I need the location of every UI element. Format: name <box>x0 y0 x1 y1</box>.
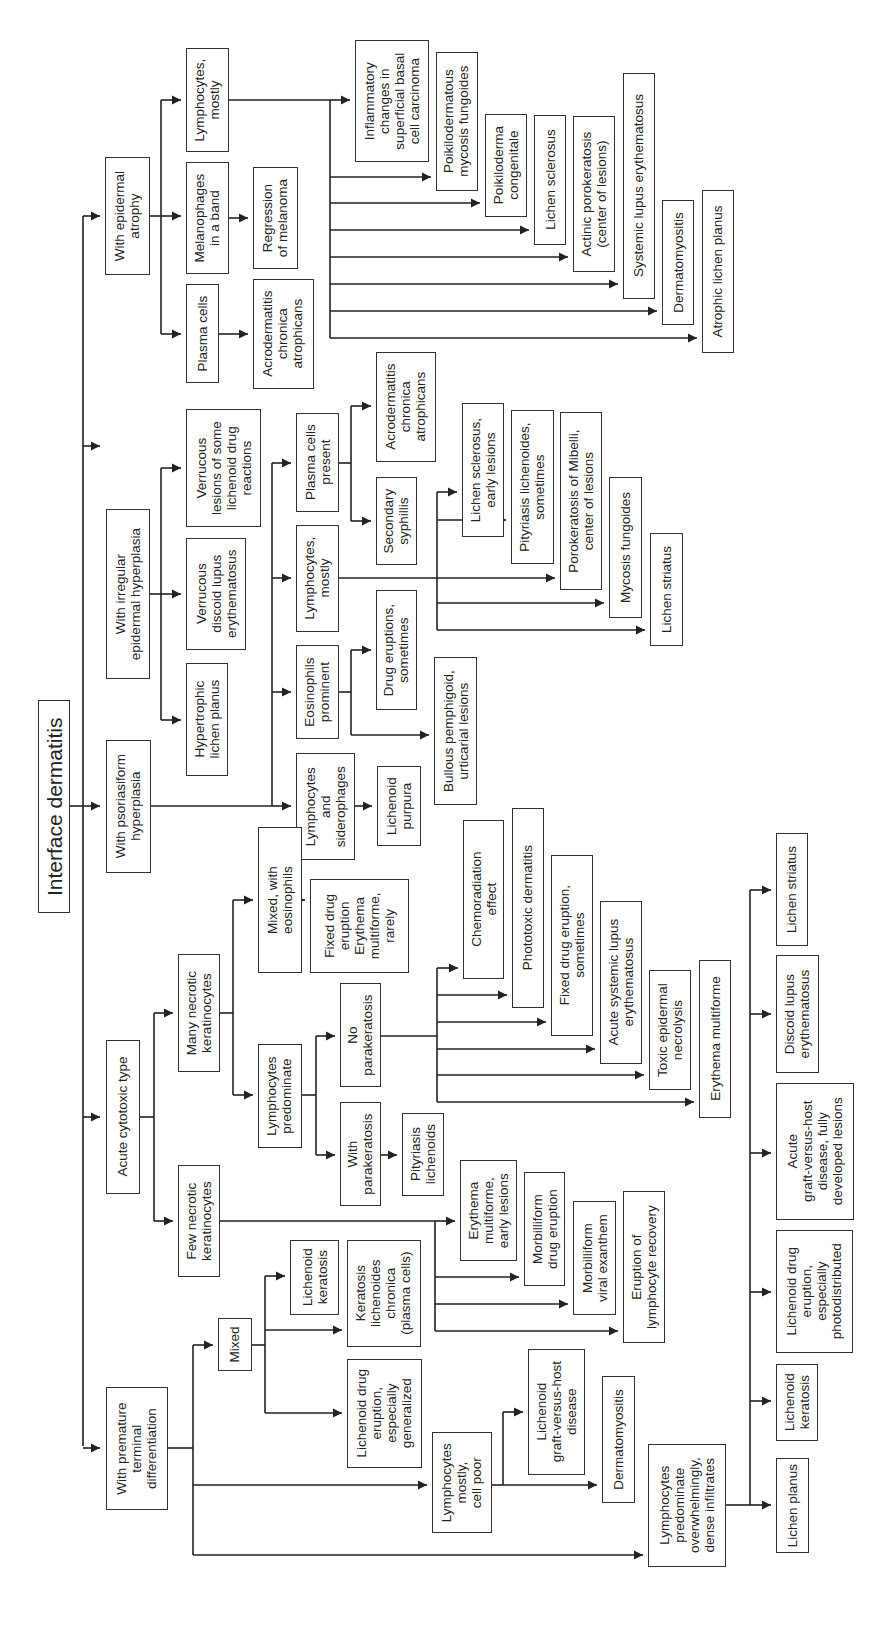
node-label: Pityriasis lichenoides, sometimes <box>517 422 547 551</box>
arrowhead-icon <box>635 1071 644 1080</box>
arrowhead-icon <box>362 517 371 526</box>
node-ps-mf: Mycosis fungoides <box>609 477 642 618</box>
node-ea-sle: Systemic lupus erythematosus <box>623 73 655 299</box>
diagram-title: Interface dermatitis <box>38 700 70 913</box>
node-pt-lichen-planus: Lichen planus <box>776 1458 809 1553</box>
node-ps-lichenoid-purpura: Lichenoid purpura <box>377 766 421 846</box>
node-pt-lk: Lichenoid keratosis <box>776 1364 818 1441</box>
node-epidermal-atrophy: With epidermal atrophy <box>105 157 150 275</box>
arrowhead-icon <box>422 173 431 182</box>
node-ps-drug-erupt: Drug eruptions, sometimes <box>376 590 417 710</box>
arrowhead-icon <box>276 1272 285 1281</box>
node-ea-infl: Inflammatory changes in superficial basa… <box>355 40 429 162</box>
node-ea-plasma: Plasma cells <box>186 284 219 383</box>
node-label: Toxic epidermal necrolysis <box>655 983 685 1077</box>
node-label: Eosinophils prominent <box>302 657 332 726</box>
node-label: Lichenoid drug eruption, especially gene… <box>354 1369 414 1458</box>
node-ea-regression: Regression of melanoma <box>253 167 298 269</box>
arrowhead-icon <box>762 1010 771 1019</box>
arrowhead-icon <box>609 280 618 289</box>
node-label: Poikiloderma congenitale <box>491 126 521 204</box>
node-label: Pityriasis lichenoids <box>408 1124 438 1184</box>
node-pt-lympho-cellpoor: Lymphocytes mostly, cell poor <box>432 1432 492 1533</box>
node-ac-fixed-em: Fixed drug eruption Erythema multiforme,… <box>310 879 409 973</box>
node-ps-lichstr: Lichen striatus <box>650 533 683 646</box>
node-label: Lymphocytes, mostly <box>302 537 332 620</box>
node-label: Lichen striatus <box>784 846 799 933</box>
node-ea-actinic: Actinic porokeratosis (center of lesions… <box>573 116 615 272</box>
node-pt-acute-gvhd: Acute graft-versus-host disease, fully d… <box>776 1083 854 1220</box>
node-label: Dermatomyositis <box>611 1389 626 1490</box>
arrowhead-icon <box>586 1045 595 1054</box>
arrowhead-icon <box>762 1288 771 1297</box>
arrowhead-icon <box>341 96 350 105</box>
arrowhead-icon <box>688 334 697 343</box>
node-label: With epidermal atrophy <box>112 171 142 261</box>
arrowhead-icon <box>164 1217 173 1226</box>
node-ps-lichscl: Lichen sclerosus, early lesions <box>462 403 504 537</box>
arrowhead-icon <box>326 1032 335 1041</box>
arrowhead-icon <box>498 991 507 1000</box>
arrowhead-icon <box>588 1481 597 1490</box>
arrowhead-icon <box>282 688 291 697</box>
arrowhead-icon <box>326 1151 335 1160</box>
node-label: Fixed drug eruption Erythema multiforme,… <box>322 893 398 960</box>
arrowhead-icon <box>609 1327 618 1336</box>
arrowhead-icon <box>239 214 248 223</box>
node-ih-hypertrophic: Hypertrophic lichen planus <box>186 663 228 776</box>
arrowhead-icon <box>420 731 429 740</box>
node-pt-lichenoid-gvhd: Lichenoid graft-versus-host disease <box>528 1349 585 1475</box>
arrowhead-icon <box>648 307 657 316</box>
node-ac-no-parak: No parakeratosis <box>340 983 381 1087</box>
arrowhead-icon <box>363 802 372 811</box>
node-ea-poikcong: Poikiloderma congenitale <box>485 114 527 217</box>
arrowhead-icon <box>91 1113 100 1122</box>
arrowhead-icon <box>282 459 291 468</box>
node-label: Discoid lupus erythematosus <box>782 970 812 1059</box>
node-ih-verr-drug: Verrucous lesions of some lichenoid drug… <box>186 409 261 527</box>
arrowhead-icon <box>537 1018 546 1027</box>
node-label: Lichenoid keratosis <box>299 1249 329 1307</box>
node-ea-lympho: Lymphocytes, mostly <box>186 48 229 152</box>
arrowhead-icon <box>762 886 771 895</box>
node-label: Melanophages in a band <box>192 174 222 263</box>
arrowhead-icon <box>172 464 181 473</box>
node-ps-syphilis: Secondary syphillis <box>376 477 417 565</box>
node-ps-pityriasis: Pityriasis lichenoides, sometimes <box>511 410 554 564</box>
arrowhead-icon <box>388 1151 397 1160</box>
node-label: With irregular epidermal hyperplasia <box>113 528 143 660</box>
node-ac-ten: Toxic epidermal necrolysis <box>649 970 691 1090</box>
arrowhead-icon <box>333 1409 342 1418</box>
node-label: Lichenoid graft-versus-host disease <box>534 1361 579 1462</box>
arrowhead-icon <box>239 330 248 339</box>
node-acute-cytotoxic: Acute cytotoxic type <box>106 1040 140 1194</box>
node-pt-lichenoid-keratosis: Lichenoid keratosis <box>290 1240 339 1315</box>
arrowhead-icon <box>362 402 371 411</box>
node-label: Erythema multiforme, early lesions <box>466 1173 511 1248</box>
node-label: Lichenoid keratosis <box>782 1374 812 1432</box>
node-label: Porokeratosis of Mibelli, center of lesi… <box>566 429 596 572</box>
node-label: Drug eruptions, sometimes <box>381 604 411 696</box>
arrowhead-icon <box>172 330 181 339</box>
node-label: Morbilliform drug eruption <box>529 1189 559 1269</box>
arrowhead-icon <box>244 896 253 905</box>
node-label: No parakeratosis <box>345 994 375 1075</box>
arrowhead-icon <box>471 199 480 208</box>
node-label: Systemic lupus erythematosus <box>631 94 646 277</box>
node-ps-porok: Porokeratosis of Mibelli, center of lesi… <box>560 412 602 590</box>
node-ea-poikmf: Poikilodermatous mycosis fungoides <box>436 52 478 191</box>
node-label: Poikilodermatous mycosis fungoides <box>442 66 472 177</box>
node-label: Inflammatory changes in superficial basa… <box>362 53 422 150</box>
node-label: Lichenoid purpura <box>384 777 414 835</box>
node-label: Actinic porokeratosis (center of lesions… <box>579 132 609 257</box>
node-pt-lichen-striatus: Lichen striatus <box>776 833 808 946</box>
arrowhead-icon <box>91 442 100 451</box>
node-ps-lympho-sidero: Lymphocytes and siderophages <box>296 753 355 860</box>
node-label: With psoriasiform hyperplasia <box>113 754 143 858</box>
node-ea-dermato: Dermatomyositis <box>662 200 694 325</box>
arrowhead-icon <box>685 1098 694 1107</box>
arrowhead-icon <box>762 1501 771 1510</box>
node-label: Lichen planus <box>785 1464 800 1547</box>
arrowhead-icon <box>636 626 645 635</box>
node-ac-phototoxic: Phototoxic dermatitis <box>512 808 544 1008</box>
